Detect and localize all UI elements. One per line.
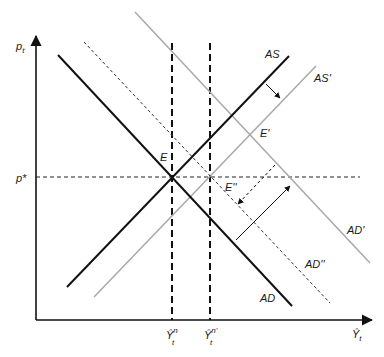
ad-curve xyxy=(58,55,292,306)
y-axis-label: pt xyxy=(15,40,25,55)
ad-prime-curve xyxy=(135,12,370,263)
equilibrium-e-label: E xyxy=(160,151,168,163)
new-natural-output-sub: t xyxy=(210,338,213,347)
ad-double-prime-shift-arrow xyxy=(238,165,275,204)
natural-output-sub: t xyxy=(172,338,175,347)
ad-label: AD xyxy=(259,292,275,304)
x-axis-label: Ŷt xyxy=(352,328,362,343)
as-label: AS xyxy=(264,48,280,60)
ad-double-prime-curve xyxy=(84,42,330,303)
as-shift-arrow xyxy=(266,84,280,98)
equilibrium-e-double-prime-label: E'' xyxy=(225,181,237,193)
ad-prime-label: AD' xyxy=(346,224,365,236)
as-curve xyxy=(67,56,289,287)
as-prime-curve xyxy=(94,66,316,297)
equilibrium-e-prime-label: E' xyxy=(260,127,270,139)
price-level-label: p* xyxy=(15,172,27,184)
as-ad-diagram: pt Ŷt p* Ŷn t Ŷn' t AS AS' AD' AD'' AD E… xyxy=(0,0,384,357)
as-prime-label: AS' xyxy=(313,72,332,84)
ad-double-prime-label: AD'' xyxy=(304,258,325,270)
